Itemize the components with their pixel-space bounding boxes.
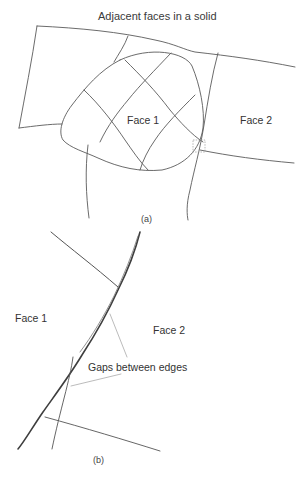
- panel-b-drawing: [18, 232, 160, 451]
- figure-title: Adjacent faces in a solid: [98, 11, 217, 22]
- face1-outline: [61, 52, 204, 170]
- gap-leader-lower: [71, 374, 121, 386]
- grid-line-3: [84, 90, 148, 170]
- bottom-right-edge: [45, 417, 160, 451]
- panel-b-face1-label: Face 1: [15, 313, 47, 324]
- face2-bottom-edge: [200, 150, 294, 163]
- face2-thick-edge: [18, 232, 140, 449]
- upper-left-edge: [51, 232, 118, 287]
- panel-a-face2-label: Face 2: [240, 115, 272, 126]
- face-boundary-left-bottom: [19, 124, 62, 128]
- gaps-annotation: Gaps between edges: [88, 362, 187, 373]
- panel-a-face1-label: Face 1: [127, 115, 159, 126]
- face-boundary-top: [37, 26, 295, 67]
- face2-left-boundary: [187, 53, 218, 220]
- lower-left-curve: [86, 145, 89, 218]
- grid-line-4: [125, 60, 203, 142]
- face-boundary-left: [19, 26, 37, 128]
- face1-edge: [80, 236, 138, 352]
- panel-b-caption: (b): [93, 456, 104, 465]
- gap-leader-upper: [110, 314, 127, 357]
- panel-a-caption: (a): [141, 215, 152, 224]
- panel-b-face2-label: Face 2: [153, 325, 185, 336]
- adjacent-faces-figure: Adjacent faces in a solid Face 1 Face 2 …: [0, 0, 306, 478]
- top-connector: [114, 36, 128, 62]
- figure-drawing: [0, 0, 306, 478]
- lower-crossing-edge: [52, 357, 73, 449]
